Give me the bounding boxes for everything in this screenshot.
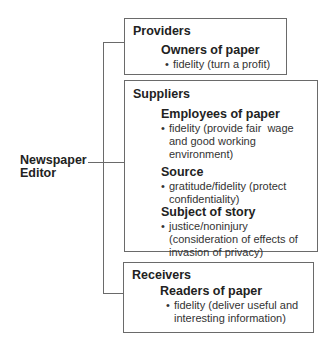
editor-line-2: Editor [20, 167, 87, 180]
newspaper-editor-label: Newspaper Editor [20, 154, 87, 180]
bullet-line: and good working [169, 135, 294, 148]
bullet-line: interesting information) [174, 312, 298, 325]
bullet-line: invasion of privacy) [169, 246, 298, 259]
bullet-line: justice/noninjury [169, 220, 298, 233]
owners-bullet: • fidelity (turn a profit) [173, 58, 270, 71]
subject-of-story: Subject of story [161, 205, 255, 219]
editor-connector [88, 162, 104, 163]
bullet-line: (consideration of effects of [169, 233, 298, 246]
bullet-icon: • [161, 122, 165, 135]
providers-title: Providers [133, 24, 191, 38]
subject-bullet: • justice/noninjury (consideration of ef… [169, 220, 298, 259]
employees-of-paper: Employees of paper [161, 107, 280, 121]
source: Source [161, 165, 203, 179]
connector-providers [103, 42, 124, 43]
suppliers-title: Suppliers [133, 87, 190, 101]
bullet-line: gratitude/fidelity (protect [169, 180, 286, 193]
bullet-line: fidelity (provide fair wage [169, 122, 294, 135]
receivers-title: Receivers [132, 268, 191, 282]
receivers-box: Receivers Readers of paper • fidelity (d… [123, 262, 314, 333]
bullet-line: fidelity (deliver useful and [174, 299, 298, 312]
source-bullet: • gratitude/fidelity (protect confidenti… [169, 180, 286, 206]
employees-bullet: • fidelity (provide fair wage and good w… [169, 122, 294, 161]
readers-bullet: • fidelity (deliver useful and interesti… [174, 299, 298, 325]
bullet-text: fidelity (turn a profit) [173, 58, 270, 70]
bullet-line: environment) [169, 148, 294, 161]
connector-receivers [103, 293, 124, 294]
providers-box: Providers Owners of paper • fidelity (tu… [124, 18, 287, 75]
bullet-icon: • [166, 299, 170, 312]
bullet-icon: • [165, 58, 169, 71]
bullet-icon: • [161, 220, 165, 233]
owners-of-paper: Owners of paper [161, 43, 260, 57]
readers-of-paper: Readers of paper [160, 284, 262, 298]
suppliers-box: Suppliers Employees of paper • fidelity … [124, 80, 318, 252]
vertical-trunk [103, 42, 104, 293]
bullet-icon: • [161, 180, 165, 193]
connector-suppliers [103, 162, 124, 163]
